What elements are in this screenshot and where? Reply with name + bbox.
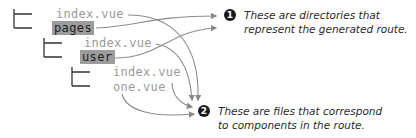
file-tree-diagram: index.vue pages index.vue user index.vue… (0, 0, 416, 138)
annotation-badge-2: 2 (198, 105, 210, 117)
annotation-1-line2: represent the generated route. (244, 22, 408, 36)
root-index-file: index.vue (56, 7, 124, 21)
annotation-2-line1: These are files that correspond (218, 104, 382, 118)
user-level-index-file: index.vue (84, 36, 152, 50)
annotation-2-line2: to components in the route. (218, 118, 382, 132)
annotation-1: These are directories that represent the… (244, 8, 408, 36)
pages-directory: pages (52, 21, 94, 35)
annotation-badge-1: 1 (224, 9, 236, 21)
one-vue-file: one.vue (113, 80, 166, 94)
user-directory: user (80, 50, 115, 64)
annotation-2: These are files that correspond to compo… (218, 104, 382, 132)
user-index-file: index.vue (113, 65, 181, 79)
annotation-1-line1: These are directories that (244, 8, 408, 22)
